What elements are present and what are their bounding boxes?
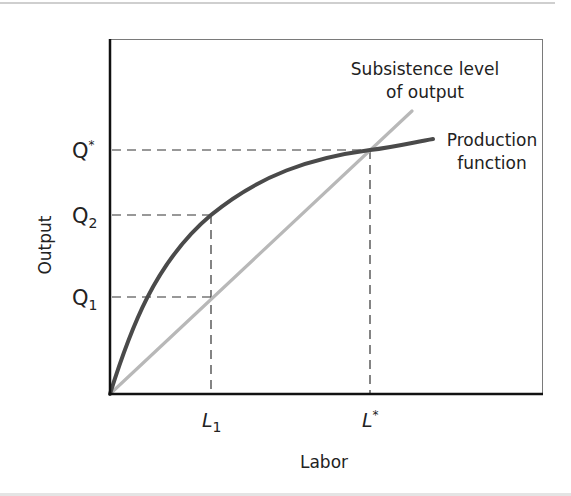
- x-tick-lstar: L*: [362, 408, 379, 431]
- x-tick-l1: L1: [202, 409, 222, 435]
- production-label-line2: function: [457, 153, 526, 173]
- production-label-line1: Production: [447, 130, 537, 150]
- y-tick-q2: Q2: [72, 204, 97, 231]
- subsistence-label-line1: Subsistence level: [351, 59, 499, 79]
- y-axis-title: Output: [35, 215, 55, 274]
- subsistence-line: [110, 111, 412, 394]
- y-tick-q1: Q1: [72, 286, 97, 313]
- x-axis-title: Labor: [300, 452, 348, 472]
- y-tick-qstar: Q*: [72, 138, 95, 163]
- subsistence-label-line2: of output: [386, 82, 464, 102]
- production-function-curve: [110, 139, 433, 394]
- production-function-diagram: Q* Q2 Q1 Output L1 L* Labor Subsistence …: [0, 0, 571, 496]
